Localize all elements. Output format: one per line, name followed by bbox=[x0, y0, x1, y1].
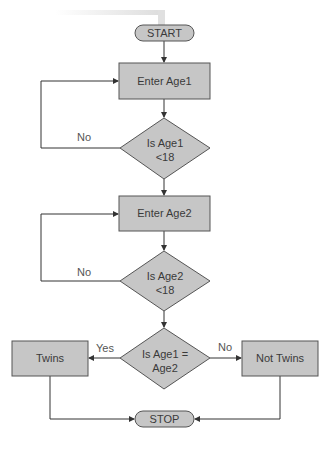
edge-label-age1-no: No bbox=[77, 131, 91, 143]
enter-age1-label: Enter Age1 bbox=[137, 75, 191, 87]
flowchart-canvas: START Enter Age1 Is Age1 <18 No Enter Ag… bbox=[0, 0, 336, 451]
check-age1-line1: Is Age1 bbox=[147, 137, 184, 149]
enter-age2-node: Enter Age2 bbox=[119, 196, 210, 231]
compare-line1: Is Age1 = bbox=[142, 348, 188, 360]
edge-nottwins-to-stop bbox=[195, 376, 280, 419]
not-twins-node: Not Twins bbox=[242, 341, 318, 376]
check-age1-line2: <18 bbox=[156, 151, 175, 163]
enter-age1-node: Enter Age1 bbox=[119, 63, 210, 99]
enter-age2-label: Enter Age2 bbox=[137, 207, 191, 219]
stop-node: STOP bbox=[135, 411, 194, 427]
edge-label-yes: Yes bbox=[96, 342, 114, 354]
twins-label: Twins bbox=[36, 352, 65, 364]
check-age2-node: Is Age2 <18 bbox=[120, 251, 210, 311]
edge-label-age2-no: No bbox=[77, 266, 91, 278]
check-age1-node: Is Age1 <18 bbox=[120, 118, 210, 179]
check-age2-line2: <18 bbox=[156, 284, 175, 296]
twins-node: Twins bbox=[12, 341, 88, 376]
edge-twins-to-stop bbox=[50, 376, 134, 419]
stop-label: STOP bbox=[150, 413, 180, 425]
start-node: START bbox=[135, 25, 194, 41]
compare-line2: Age2 bbox=[152, 362, 178, 374]
not-twins-label: Not Twins bbox=[256, 352, 305, 364]
start-label: START bbox=[147, 27, 182, 39]
compare-ages-node: Is Age1 = Age2 bbox=[120, 328, 210, 389]
check-age2-line1: Is Age2 bbox=[147, 270, 184, 282]
edge-label-no: No bbox=[218, 341, 232, 353]
